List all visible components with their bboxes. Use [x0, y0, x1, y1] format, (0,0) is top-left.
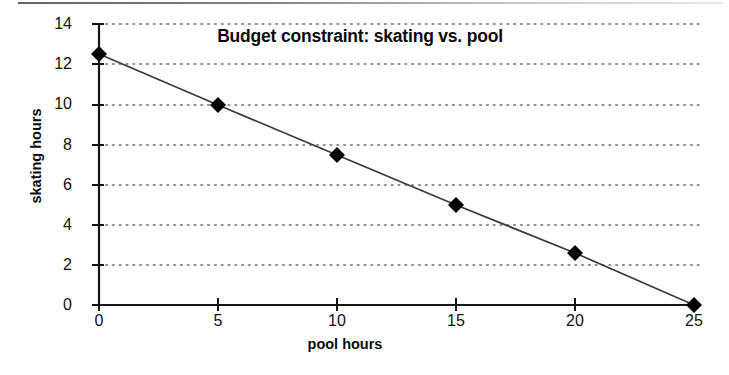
gridlines — [99, 24, 701, 265]
data-point-10 — [329, 147, 345, 163]
plot-area — [0, 0, 729, 375]
data-point-15 — [448, 197, 464, 213]
data-point-25 — [686, 297, 702, 313]
data-point-20 — [567, 245, 583, 261]
series-line-budget-constraint — [99, 54, 694, 305]
data-point-5 — [210, 97, 226, 113]
data-point-0 — [91, 46, 107, 62]
chart-figure: Budget constraint: skating vs. pool skat… — [0, 0, 729, 375]
